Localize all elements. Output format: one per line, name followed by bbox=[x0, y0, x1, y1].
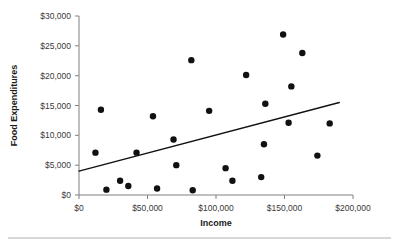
data-point bbox=[280, 31, 286, 37]
data-point bbox=[103, 186, 109, 192]
data-point bbox=[188, 57, 194, 63]
data-point bbox=[170, 136, 176, 142]
y-tick-label: $10,000 bbox=[40, 130, 71, 140]
data-point bbox=[258, 174, 264, 180]
data-point bbox=[206, 108, 212, 114]
data-point bbox=[133, 149, 139, 155]
x-tick-label: $0 bbox=[74, 203, 84, 213]
scatter-plot-svg: $0 $5,000 $10,000 $15,000 $20,000 $25,00… bbox=[0, 0, 399, 248]
data-point bbox=[150, 113, 156, 119]
data-point bbox=[288, 83, 294, 89]
y-tick-label: $25,000 bbox=[40, 41, 71, 51]
data-point bbox=[190, 187, 196, 193]
x-tick-label: $200,000 bbox=[335, 203, 371, 213]
data-point bbox=[154, 185, 160, 191]
data-point bbox=[125, 183, 131, 189]
y-tick-label: $15,000 bbox=[40, 101, 71, 111]
data-point bbox=[262, 101, 268, 107]
data-point bbox=[327, 120, 333, 126]
y-axis-title: Food Expenditures bbox=[9, 65, 19, 147]
data-point bbox=[117, 177, 123, 183]
x-tick-label: $50,000 bbox=[132, 203, 163, 213]
data-point bbox=[229, 177, 235, 183]
x-axis-title: Income bbox=[200, 218, 232, 228]
data-point bbox=[299, 50, 305, 56]
x-tick-label: $150,000 bbox=[267, 203, 303, 213]
data-point bbox=[243, 72, 249, 78]
x-tick-label: $100,000 bbox=[198, 203, 234, 213]
y-tick-label: $5,000 bbox=[45, 160, 71, 170]
data-point bbox=[92, 149, 98, 155]
data-point bbox=[222, 165, 228, 171]
data-point bbox=[285, 120, 291, 126]
data-point bbox=[173, 162, 179, 168]
y-tick-label: $30,000 bbox=[40, 11, 71, 21]
data-point bbox=[261, 141, 267, 147]
y-tick-label: $20,000 bbox=[40, 71, 71, 81]
y-tick-label: $0 bbox=[62, 190, 72, 200]
data-point bbox=[98, 106, 104, 112]
chart-figure: $0 $5,000 $10,000 $15,000 $20,000 $25,00… bbox=[0, 0, 399, 248]
data-point bbox=[314, 152, 320, 158]
